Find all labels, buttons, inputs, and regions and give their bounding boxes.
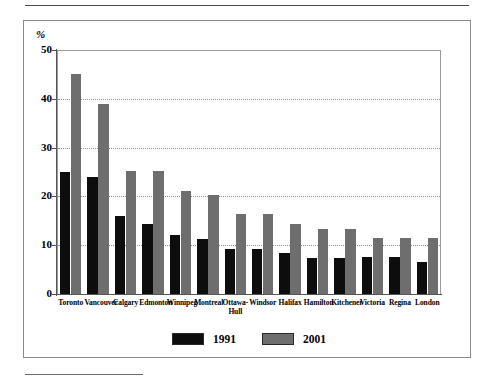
x-label-line: Vancouver bbox=[84, 298, 111, 307]
x-label-line: Calgary bbox=[112, 298, 139, 307]
x-label-calgary: Calgary bbox=[112, 298, 139, 307]
x-label-toronto: Toronto bbox=[57, 298, 84, 307]
x-label-line: Windsor bbox=[249, 298, 276, 307]
bar-1991-hamilton bbox=[307, 258, 318, 294]
bar-2001-calgary bbox=[126, 171, 137, 294]
x-label-montreal: Montreal bbox=[194, 298, 221, 307]
x-label-edmonton: Edmonton bbox=[139, 298, 166, 307]
bar-1991-toronto bbox=[60, 172, 71, 294]
x-label-victoria: Victoria bbox=[359, 298, 386, 307]
legend-swatch-1991-icon bbox=[172, 333, 204, 345]
bar-2001-london bbox=[428, 238, 439, 294]
x-label-line: Toronto bbox=[57, 298, 84, 307]
bar-1991-regina bbox=[389, 257, 400, 294]
bar-1991-montreal bbox=[197, 239, 208, 294]
bar-2001-vancouver bbox=[98, 104, 109, 294]
bar-1991-vancouver bbox=[87, 177, 98, 294]
x-label-line: Montreal bbox=[194, 298, 221, 307]
x-label-halifax: Halifax bbox=[276, 298, 303, 307]
bar-2001-edmonton bbox=[153, 171, 164, 294]
x-label-line: Halifax bbox=[276, 298, 303, 307]
bar-2001-hamilton bbox=[318, 229, 329, 294]
x-label-hamilton: Hamilton bbox=[304, 298, 331, 307]
bar-2001-ottawa--hull bbox=[236, 214, 247, 294]
legend-item-2001: 2001 bbox=[262, 333, 326, 345]
x-label-line: Hull bbox=[222, 307, 249, 316]
x-label-vancouver: Vancouver bbox=[84, 298, 111, 307]
bar-1991-victoria bbox=[362, 257, 373, 294]
x-label-line: Regina bbox=[386, 298, 413, 307]
x-label-line: Hamilton bbox=[304, 298, 331, 307]
x-label-line: Edmonton bbox=[139, 298, 166, 307]
footnote-divider-rule bbox=[25, 374, 143, 375]
bar-1991-ottawa--hull bbox=[225, 249, 236, 294]
x-label-windsor: Windsor bbox=[249, 298, 276, 307]
x-label-winnipeg: Winnipeg bbox=[167, 298, 194, 307]
legend-label-1991: 1991 bbox=[213, 333, 236, 345]
x-label-kitchener: Kitchener bbox=[331, 298, 358, 307]
bar-2001-montreal bbox=[208, 195, 219, 294]
bar-1991-halifax bbox=[279, 253, 290, 294]
bar-1991-winnipeg bbox=[170, 235, 181, 294]
legend-item-1991: 1991 bbox=[172, 333, 236, 345]
chart-legend: 1991 2001 bbox=[57, 328, 441, 350]
x-label-line: London bbox=[414, 298, 441, 307]
bar-1991-kitchener bbox=[334, 258, 345, 294]
x-label-regina: Regina bbox=[386, 298, 413, 307]
bar-2001-halifax bbox=[290, 224, 301, 294]
x-label-ottawa--hull: Ottawa-Hull bbox=[222, 298, 249, 316]
bar-2001-regina bbox=[400, 238, 411, 294]
x-label-line: Ottawa- bbox=[222, 298, 249, 307]
bar-2001-kitchener bbox=[345, 229, 356, 294]
bar-2001-windsor bbox=[263, 214, 274, 294]
bar-1991-london bbox=[417, 262, 428, 294]
x-label-london: London bbox=[414, 298, 441, 307]
legend-swatch-2001-icon bbox=[262, 333, 294, 345]
bar-1991-edmonton bbox=[142, 224, 153, 294]
figure-page: % 01020304050 TorontoVancouverCalgaryEdm… bbox=[0, 0, 494, 383]
bars-layer bbox=[0, 0, 494, 383]
legend-label-2001: 2001 bbox=[303, 333, 326, 345]
x-label-line: Kitchener bbox=[331, 298, 358, 307]
bar-2001-winnipeg bbox=[181, 191, 192, 294]
bar-2001-victoria bbox=[373, 238, 384, 294]
x-label-line: Victoria bbox=[359, 298, 386, 307]
bar-1991-calgary bbox=[115, 216, 126, 294]
x-label-line: Winnipeg bbox=[167, 298, 194, 307]
bar-1991-windsor bbox=[252, 249, 263, 294]
bar-2001-toronto bbox=[71, 74, 82, 294]
